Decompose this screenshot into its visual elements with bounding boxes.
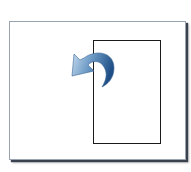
rotate-left-arrow-icon [68,46,120,90]
page-frame [9,21,186,160]
